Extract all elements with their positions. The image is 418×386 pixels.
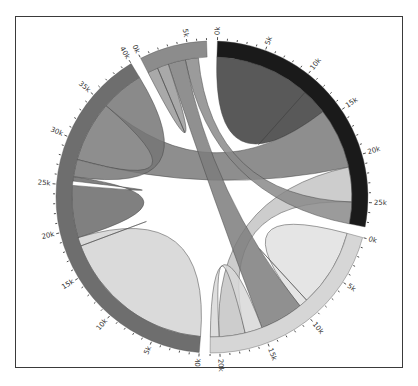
tick-mark — [301, 66, 302, 68]
tick-mark — [353, 265, 355, 266]
tick-mark — [325, 306, 326, 307]
tick-label: 5k — [181, 28, 190, 39]
tick-mark — [85, 101, 87, 102]
tick-mark — [108, 316, 110, 318]
tick-mark — [67, 261, 69, 262]
tick-mark — [60, 243, 62, 244]
tick-mark — [277, 340, 278, 342]
tick-mark — [142, 338, 143, 340]
tick-mark — [284, 56, 285, 58]
tick-label: 5k — [346, 282, 358, 294]
tick-mark — [133, 333, 134, 335]
tick-mark — [357, 256, 359, 257]
tick-mark — [169, 348, 170, 350]
tick-mark — [332, 298, 334, 299]
tick-mark — [316, 78, 317, 79]
tick-mark — [311, 319, 313, 321]
tick-mark — [129, 60, 131, 63]
tick-mark — [106, 79, 107, 80]
tick-mark — [363, 153, 366, 154]
tick-mark — [347, 117, 349, 118]
tick-mark — [75, 278, 78, 280]
tick-mark — [303, 325, 304, 327]
tick-mark — [309, 71, 311, 73]
tick-mark — [256, 44, 257, 46]
tick-mark — [88, 295, 90, 296]
tick-mark — [116, 322, 117, 324]
chord-diagram: 0k5k10k15k20k25k0k5k10k15k20k0k5k10k15k2… — [0, 0, 418, 386]
tick-mark — [113, 72, 114, 74]
tick-label: 0k — [131, 43, 142, 55]
tick-mark — [64, 135, 67, 136]
tick-mark — [94, 302, 95, 303]
tick-label: 25k — [37, 178, 52, 187]
tick-mark — [74, 118, 76, 119]
tick-label: 20k — [367, 145, 383, 157]
tick-label: 40k — [118, 45, 132, 61]
tick-label: 10k — [309, 56, 324, 72]
tick-mark — [59, 154, 61, 155]
tick-label: 0k — [367, 235, 378, 245]
tick-mark — [352, 125, 354, 126]
tick-label: 0k — [214, 26, 222, 36]
tick-mark — [361, 247, 363, 248]
tick-mark — [318, 313, 319, 314]
tick-mark — [71, 270, 73, 271]
tick-mark — [158, 48, 159, 50]
tick-label: 30k — [49, 126, 65, 139]
tick-mark — [266, 47, 267, 50]
tick-mark — [80, 109, 82, 110]
tick-mark — [62, 145, 64, 146]
tick-mark — [338, 291, 340, 292]
tick-mark — [124, 328, 125, 330]
tick-label: 20k — [216, 359, 225, 373]
tick-mark — [91, 93, 93, 95]
tick-mark — [360, 144, 362, 145]
tick-label: 35k — [77, 80, 93, 95]
tick-mark — [70, 126, 72, 127]
tick-mark — [336, 100, 338, 101]
tick-mark — [150, 342, 151, 345]
tick-mark — [63, 252, 65, 253]
tick-mark — [101, 309, 102, 310]
tick-mark — [364, 238, 367, 239]
tick-label: 15k — [266, 347, 278, 363]
tick-mark — [323, 85, 324, 86]
tick-mark — [330, 92, 332, 93]
tick-mark — [167, 44, 168, 46]
tick-mark — [160, 345, 161, 347]
tick-mark — [121, 66, 122, 68]
tick-label: 15k — [60, 277, 76, 291]
tick-label: 0k — [194, 357, 203, 367]
tick-mark — [356, 134, 358, 135]
tick-label: 15k — [344, 95, 360, 109]
chord-ribbons — [72, 57, 352, 337]
tick-mark — [275, 51, 276, 53]
tick-label: 20k — [41, 230, 56, 241]
tick-mark — [342, 108, 344, 110]
tick-label: 25k — [374, 199, 388, 208]
tick-label: 10k — [311, 320, 326, 336]
tick-mark — [148, 51, 149, 53]
tick-label: 5k — [142, 344, 153, 356]
tick-label: 10k — [95, 316, 110, 332]
tick-mark — [56, 233, 59, 234]
tick-mark — [82, 287, 84, 288]
tick-mark — [344, 283, 347, 285]
tick-mark — [268, 344, 269, 347]
tick-mark — [139, 55, 140, 58]
tick-label: 5k — [264, 34, 275, 46]
tick-mark — [286, 335, 287, 337]
tick-mark — [98, 86, 99, 87]
tick-mark — [349, 274, 351, 275]
tick-mark — [292, 60, 293, 62]
tick-mark — [295, 331, 296, 333]
tick-mark — [259, 347, 260, 349]
